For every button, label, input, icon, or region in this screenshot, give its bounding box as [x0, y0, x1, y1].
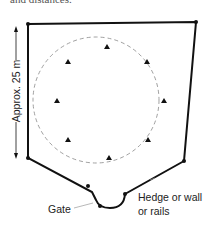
dashed-circle: [33, 37, 159, 163]
gate-leader: [74, 203, 93, 208]
gate-label: Gate: [48, 203, 71, 215]
jump-markers: [54, 44, 167, 160]
dimension-label: Approx. 25 m: [10, 59, 22, 123]
boundary-label-line1: Hedge or wall: [138, 191, 202, 203]
boundary-label-line2: or rails: [138, 205, 170, 217]
enclosure-boundary: [28, 22, 196, 208]
boundary-posts: [26, 20, 198, 208]
